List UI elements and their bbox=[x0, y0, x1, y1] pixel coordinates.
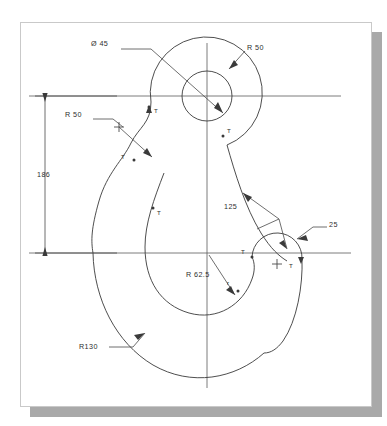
shank-fillet-dimension: R 50 bbox=[65, 110, 152, 157]
outer-body-radius-label: R130 bbox=[79, 342, 98, 351]
tangent-label-upper-right: T bbox=[227, 127, 231, 134]
eye-radius-label: R 50 bbox=[247, 43, 264, 52]
bore-diameter-label: Ø 45 bbox=[91, 39, 108, 48]
tangent-mark-upper-left: T bbox=[146, 105, 158, 114]
outer-body-arc bbox=[93, 253, 264, 378]
outer-body-radius-dimension: R130 bbox=[79, 333, 145, 351]
tangent-mark-mid-throat: T bbox=[152, 207, 162, 217]
flank-leader-shelf bbox=[257, 219, 279, 229]
tangent-arrow-tip-right bbox=[298, 257, 304, 264]
tangent-label-lower-right: r bbox=[227, 279, 229, 286]
eye-radius-dimension: R 50 bbox=[229, 43, 264, 69]
shank-leader-seg bbox=[113, 119, 123, 127]
overall-height-label: 186 bbox=[37, 170, 50, 179]
bore-leader-arrow bbox=[214, 102, 223, 113]
left-shank-outline bbox=[92, 102, 151, 253]
tangent-dot-upper-right bbox=[222, 135, 225, 138]
tangent-dot-left-shank bbox=[133, 159, 136, 162]
bore-diameter-dimension: Ø 45 bbox=[91, 39, 223, 113]
shank-fillet-radius-label: R 50 bbox=[65, 110, 82, 119]
axis-lines bbox=[29, 43, 351, 388]
tangent-label-upper-left: T bbox=[154, 107, 158, 114]
eye-radius-arrow bbox=[229, 60, 238, 69]
tangent-label-tip-upper: T bbox=[241, 248, 245, 255]
tangent-mark-left-shank: T bbox=[121, 153, 136, 162]
tangent-dot-lower-right bbox=[237, 290, 240, 293]
bore-leader-line bbox=[151, 49, 223, 113]
hook-tip-arc bbox=[252, 233, 302, 353]
flank-radius-dimension: 125 bbox=[224, 193, 287, 249]
tip-radius-label: 25 bbox=[329, 220, 338, 229]
throat-leader-arrow bbox=[226, 286, 235, 295]
tangent-label-left-shank: T bbox=[121, 153, 125, 160]
tangent-label-mid-throat: T bbox=[157, 209, 161, 216]
tip-radius-center-mark bbox=[272, 259, 282, 269]
tangent-dot-mid-throat bbox=[152, 207, 155, 210]
height-arrow-top bbox=[42, 93, 47, 102]
tangent-mark-upper-right: T bbox=[222, 127, 232, 138]
eye-outer-arc bbox=[150, 37, 262, 145]
hook-profile bbox=[92, 37, 302, 378]
hook-technical-drawing: 186 Ø 45 R 50 bbox=[21, 23, 373, 408]
tangent-label-tip-right: T bbox=[289, 262, 293, 269]
flank-radius-label: 125 bbox=[224, 202, 237, 211]
tangent-dot-tip-upper bbox=[251, 256, 254, 259]
throat-radius-dimension: R 62.5 bbox=[186, 255, 235, 295]
height-arrow-bottom bbox=[42, 247, 47, 256]
screenshot-canvas: 186 Ø 45 R 50 bbox=[0, 0, 387, 426]
throat-radius-label: R 62.5 bbox=[186, 270, 210, 279]
drawing-sheet: 186 Ø 45 R 50 bbox=[20, 22, 372, 407]
throat-arc bbox=[145, 173, 254, 315]
shank-leader-arrow bbox=[143, 148, 152, 157]
